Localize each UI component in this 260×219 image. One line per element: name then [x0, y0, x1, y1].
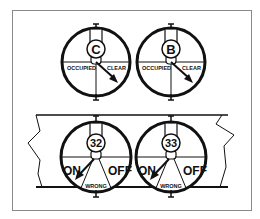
indicator-diagram: C OCCUPIED CLEAR B OCCUPIED CLEAR — [0, 0, 260, 219]
track-indicator-c: C OCCUPIED CLEAR — [62, 24, 130, 100]
track-indicator-b: B OCCUPIED CLEAR — [137, 24, 205, 100]
wrong-label: WRONG — [85, 183, 107, 189]
track-letter: B — [166, 42, 175, 57]
occupied-label: OCCUPIED — [67, 65, 96, 71]
off-label: OFF — [108, 164, 132, 178]
clear-label: CLEAR — [107, 65, 126, 71]
switch-number: 33 — [165, 137, 177, 149]
switch-indicator-32: 32 ON OFF WRONG — [61, 116, 132, 197]
switch-indicator-33: 33 ON OFF WRONG — [136, 116, 207, 197]
diagram-frame — [13, 11, 252, 211]
switch-number: 32 — [90, 137, 102, 149]
wrong-label: WRONG — [160, 183, 182, 189]
off-label: OFF — [183, 164, 207, 178]
clear-label: CLEAR — [182, 65, 201, 71]
occupied-label: OCCUPIED — [142, 65, 171, 71]
track-letter: C — [91, 42, 101, 57]
